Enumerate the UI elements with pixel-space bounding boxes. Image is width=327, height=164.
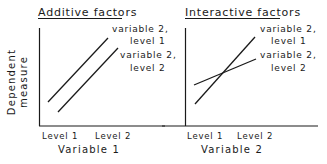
line-variable2-level2: [58, 48, 118, 112]
line-variable2-level1: [48, 38, 108, 102]
legend-label: variable 2,: [260, 24, 317, 34]
y-label-line1: Dependent: [6, 49, 17, 115]
panel-title: Interactive factors: [185, 6, 301, 19]
legend-label: level 2: [271, 63, 307, 73]
x-tick-label: Level 2: [95, 131, 131, 141]
legend-label: level 2: [130, 63, 166, 73]
legend-label: level 1: [130, 36, 166, 46]
x-axis-label: Variable 2: [201, 144, 263, 155]
legend-label: variable 2,: [112, 24, 169, 34]
x-tick-label: Level 1: [187, 131, 223, 141]
x-tick-label: Level 2: [237, 131, 273, 141]
x-tick-label: Level 1: [42, 131, 78, 141]
legend-label: level 1: [271, 36, 307, 46]
panel-interactive: Interactive factors variable 2, level 1 …: [162, 6, 318, 155]
line-variable2-level2: [194, 59, 256, 85]
panel-additive: Additive factors variable 2, level 1 var…: [38, 6, 177, 155]
x-axis-label: Variable 1: [58, 144, 120, 155]
factors-diagram: Dependent measure Additive factors varia…: [0, 0, 327, 164]
panel-title: Additive factors: [38, 6, 137, 19]
legend-label: variable 2,: [120, 50, 177, 60]
y-axis-label: Dependent measure: [6, 49, 29, 115]
y-label-line2: measure: [18, 56, 29, 108]
legend-label: variable 2,: [260, 50, 317, 60]
line-variable2-level1: [195, 37, 255, 104]
